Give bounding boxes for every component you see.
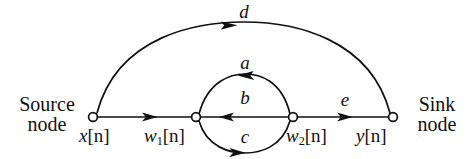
arrowhead-c <box>229 148 246 157</box>
source-caption-line2: node <box>6 114 88 134</box>
node-label-x-index: [n] <box>87 125 109 146</box>
node-label-w2: w2[n] <box>286 126 327 148</box>
node-w1 <box>192 113 201 122</box>
signal-flow-graph-figure: Source node Sink node x[n] w1[n] w2[n] y… <box>0 0 476 159</box>
node-label-w1: w1[n] <box>144 126 185 148</box>
branch-label-e: e <box>333 90 357 109</box>
branch-x-to-w1 <box>98 113 192 122</box>
branch-label-c: c <box>233 127 257 146</box>
node-label-w1-var: w <box>144 125 157 146</box>
node-label-y: y[n] <box>356 126 387 145</box>
source-caption-line1: Source <box>19 93 75 115</box>
node-label-x: x[n] <box>79 126 110 145</box>
node-x <box>89 113 98 122</box>
node-y <box>389 113 398 122</box>
branch-label-b: b <box>233 88 257 107</box>
node-label-w2-index: [n] <box>305 125 327 146</box>
node-label-y-index: [n] <box>364 125 386 146</box>
sink-node-caption: Sink node <box>401 94 473 135</box>
node-w2 <box>289 113 298 122</box>
branch-label-a: a <box>233 53 257 72</box>
sink-caption-line2: node <box>401 114 473 134</box>
branch-e <box>297 113 389 122</box>
node-label-w2-var: w <box>286 125 299 146</box>
sink-caption-line1: Sink <box>419 93 456 115</box>
branch-b <box>200 113 289 122</box>
node-label-w1-index: [n] <box>163 125 185 146</box>
branch-label-d: d <box>232 2 256 21</box>
source-node-caption: Source node <box>6 94 88 135</box>
